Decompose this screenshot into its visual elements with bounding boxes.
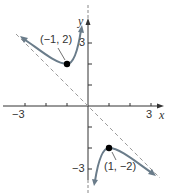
leader-line-p2: [112, 152, 116, 160]
x-tick-label-neg3: −3: [12, 108, 25, 120]
point-label-p1: (−1, 2): [40, 33, 72, 45]
y-tick-label-neg3: −3: [72, 162, 85, 174]
point-label-p2: (1, −2): [104, 160, 136, 172]
y-axis-arrow-icon: [86, 18, 91, 25]
x-axis-label: x: [159, 108, 164, 123]
point-minus1-2: [64, 61, 70, 67]
y-tick-label-3: 3: [79, 36, 85, 48]
graph: [0, 0, 170, 195]
y-axis-label: y: [78, 14, 83, 29]
leader-line-p1: [58, 48, 65, 60]
point-1-minus2: [106, 145, 112, 151]
lower-left-arrow-icon: [92, 179, 98, 186]
x-tick-label-3: 3: [146, 108, 152, 120]
